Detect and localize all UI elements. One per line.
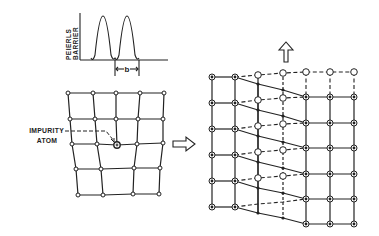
dislocation-diagram: b PEIERLS BARRIER IMPURITY ATOM xyxy=(0,0,379,236)
impurity-atom xyxy=(114,142,120,148)
impurity-label-line1: IMPURITY xyxy=(29,127,64,134)
barrier-curve xyxy=(91,16,139,59)
spacing-label: b xyxy=(125,65,130,74)
impurity-leader-line xyxy=(65,131,114,142)
up-arrow-icon xyxy=(279,42,293,62)
barrier-ylabel: PEIERLS BARRIER xyxy=(65,27,79,60)
right-arrow-icon xyxy=(173,137,195,151)
impurity-label-line2: ATOM xyxy=(37,137,58,144)
ylabel-line2: BARRIER xyxy=(72,27,79,60)
ylabel-line1: PEIERLS xyxy=(65,29,72,60)
